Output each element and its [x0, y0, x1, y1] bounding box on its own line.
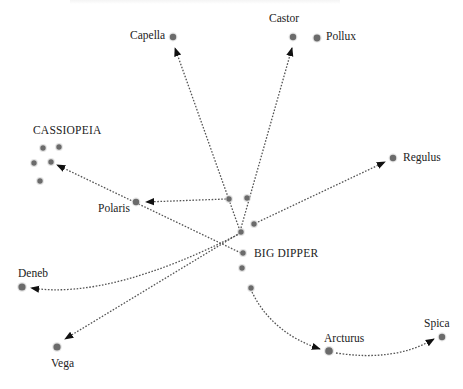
big-dipper-star-icon: [251, 221, 256, 226]
cassiopeia-star-icon: [40, 145, 45, 150]
castor-star-icon: [290, 34, 296, 40]
spica-label: Spica: [424, 318, 450, 330]
cassiopeia-label: CASSIOPEIA: [33, 125, 101, 137]
cassiopeia-star-icon: [31, 160, 36, 165]
regulus-label: Regulus: [403, 152, 441, 164]
pointer-to-regulus: [258, 162, 385, 222]
named-stars: [17, 33, 446, 356]
big-dipper-label: BIG DIPPER: [254, 248, 318, 260]
star-map: [0, 0, 463, 389]
big-dipper-star-icon: [226, 196, 231, 201]
pointer-to-deneb: [31, 233, 241, 290]
regulus-star-icon: [390, 155, 396, 161]
cassiopeia-star-icon: [56, 144, 61, 149]
pointer-to-polaris: [146, 199, 226, 202]
pointer-lines: [31, 48, 434, 356]
deneb-star-icon: [18, 283, 25, 290]
castor-label: Castor: [269, 13, 299, 25]
pointer-to-vega: [65, 233, 240, 339]
pollux-label: Pollux: [326, 31, 356, 43]
spica-star-icon: [439, 334, 445, 340]
deneb-label: Deneb: [18, 268, 48, 280]
cassiopeia-star-icon: [48, 159, 53, 164]
big-dipper-star-icon: [240, 250, 245, 255]
pollux-star-icon: [314, 35, 321, 42]
arcturus-label: Arcturus: [324, 333, 364, 345]
constellation-stars: [30, 143, 258, 292]
pointer-to-arcturus: [252, 292, 320, 349]
big-dipper-star-icon: [238, 229, 243, 234]
big-dipper-star-icon: [239, 265, 244, 270]
arcturus-star-icon: [325, 347, 333, 355]
capella-label: Capella: [130, 30, 165, 42]
vega-label: Vega: [51, 358, 74, 370]
pointer-to-cassiopeia: [57, 165, 241, 253]
polaris-label: Polaris: [98, 203, 130, 215]
big-dipper-star-icon: [244, 195, 249, 200]
vega-star-icon: [53, 343, 60, 350]
polaris-star-icon: [133, 199, 139, 205]
cassiopeia-star-icon: [37, 178, 42, 183]
capella-star-icon: [170, 34, 176, 40]
big-dipper-star-icon: [248, 285, 253, 290]
